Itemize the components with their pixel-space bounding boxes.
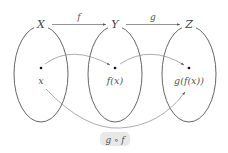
set-x-ellipse <box>14 26 68 122</box>
element-gfx-dot <box>188 67 191 70</box>
set-z-label: Z <box>184 18 193 31</box>
element-x-label: x <box>38 75 44 86</box>
element-gfx-label: g(f(x)) <box>174 75 204 86</box>
composition-diagram: X Y Z f g x f(x) g(f(x)) g ∘ f <box>0 0 228 153</box>
set-x-label: X <box>36 18 46 31</box>
map-g-label: g <box>150 12 156 22</box>
element-fx-label: f(x) <box>106 75 124 86</box>
element-fx-dot <box>114 67 117 70</box>
f-element-curve <box>45 54 110 65</box>
map-f-label: f <box>76 12 82 22</box>
composition-label: g ∘ f <box>105 135 126 145</box>
set-y-ellipse <box>88 26 142 122</box>
element-x-dot <box>40 67 43 70</box>
set-z-ellipse <box>162 26 216 122</box>
g-element-curve <box>120 54 184 65</box>
